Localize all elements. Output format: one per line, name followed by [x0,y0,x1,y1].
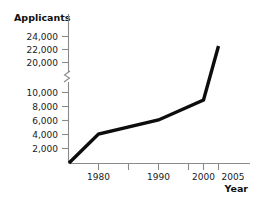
y-axis-break-icon [64,71,70,82]
y-tick-label-8000: 8,000 [32,102,58,112]
y-tick-label-24000: 24,000 [27,32,59,42]
x-tick-label-2000: 2000 [192,172,215,182]
x-axis-title: Year [223,183,248,194]
y-tick-label-22000: 22,000 [27,45,59,55]
x-tick-label-1990: 1990 [147,172,170,182]
y-tick-label-4000: 4,000 [32,130,58,140]
y-tick-label-10000: 10,000 [27,88,59,98]
y-axis-title: Applicants [14,12,71,23]
x-tick-label-1980: 1980 [87,172,110,182]
x-tick-label-2005: 2005 [222,172,245,182]
y-tick-label-2000: 2,000 [32,144,58,154]
applicants-data-line [69,46,219,163]
y-tick-label-20000: 20,000 [27,58,59,68]
y-tick-label-6000: 6,000 [32,116,58,126]
chart-canvas: Applicants 24,000 22,000 20,000 10,000 8… [0,0,259,201]
applicants-line-chart: Applicants 24,000 22,000 20,000 10,000 8… [0,0,259,201]
